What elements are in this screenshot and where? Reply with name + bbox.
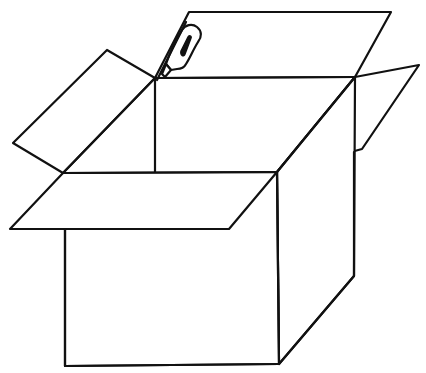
open-box-illustration [0,0,426,373]
opening-back-edge [155,77,355,78]
left-flap [13,50,155,173]
opening-front-edge [63,172,277,173]
front-flap [10,172,277,229]
